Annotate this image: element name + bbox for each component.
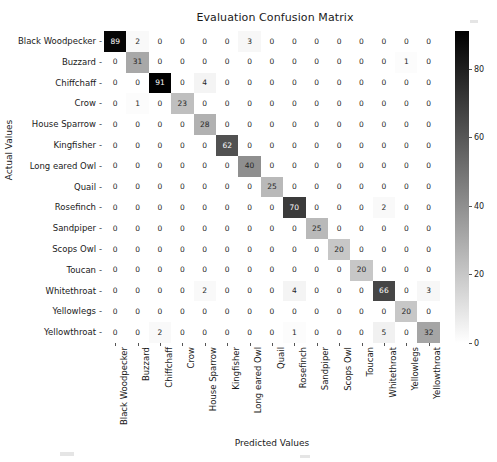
matrix-cell: 0: [216, 177, 238, 198]
matrix-cell: 0: [149, 52, 171, 73]
matrix-cell: 0: [283, 218, 305, 239]
matrix-cell: 0: [171, 73, 193, 94]
matrix-cell: 0: [238, 135, 260, 156]
matrix-cell: 0: [395, 135, 417, 156]
colorbar-tick-mark: [469, 69, 472, 70]
matrix-cell: 0: [126, 301, 148, 322]
matrix-cell: 1: [126, 93, 148, 114]
matrix-cell: 0: [328, 260, 350, 281]
colorbar-tick-label: 40: [474, 201, 484, 210]
x-axis-tick-mark: [384, 343, 385, 346]
matrix-cell: 0: [350, 156, 372, 177]
matrix-cell: 0: [216, 322, 238, 343]
matrix-cell: 40: [238, 156, 260, 177]
x-axis-tick-label: Toucan: [365, 347, 375, 377]
matrix-row: 0000000070000200: [104, 197, 440, 218]
matrix-cell: 0: [306, 73, 328, 94]
matrix-cell: 0: [306, 156, 328, 177]
matrix-cell: 0: [261, 93, 283, 114]
matrix-cell: 0: [417, 218, 440, 239]
matrix-cell: 0: [373, 73, 395, 94]
matrix-cell: 0: [149, 156, 171, 177]
matrix-cell: 25: [261, 177, 283, 198]
x-axis-tick-mark: [339, 343, 340, 346]
matrix-row: 0000200040006603: [104, 281, 440, 302]
y-axis-tick-mark: -: [99, 197, 102, 218]
matrix-cell: 0: [417, 93, 440, 114]
matrix-cell: 62: [216, 135, 238, 156]
matrix-cell: 0: [328, 73, 350, 94]
y-axis-tick-label: House Sparrow: [32, 114, 96, 135]
matrix-cell: 2: [149, 322, 171, 343]
matrix-cell: 0: [350, 52, 372, 73]
matrix-cell: 0: [261, 52, 283, 73]
matrix-cell: 0: [417, 177, 440, 198]
matrix-cell: 70: [283, 197, 305, 218]
y-axis-tick-mark: -: [99, 52, 102, 73]
colorbar-tick-label: 60: [474, 133, 484, 142]
matrix-cell: 0: [261, 73, 283, 94]
x-axis-tick-label: Sandpiper: [320, 347, 330, 390]
x-axis-tick-mark: [115, 343, 116, 346]
matrix-cell: 0: [261, 135, 283, 156]
matrix-cell: 0: [350, 197, 372, 218]
matrix-cell: 0: [328, 114, 350, 135]
confusion-matrix-grid: 8920000300000000031000000000001000910400…: [104, 31, 440, 343]
matrix-cell: 2: [194, 281, 216, 302]
matrix-cell: 0: [104, 260, 126, 281]
y-axis-tick-label: Sandpiper: [53, 218, 96, 239]
matrix-cell: 0: [149, 31, 171, 52]
matrix-cell: 0: [126, 239, 148, 260]
x-axis-tick-label: Chiffchaff: [164, 347, 174, 388]
matrix-cell: 0: [216, 114, 238, 135]
matrix-cell: 0: [306, 260, 328, 281]
matrix-cell: 0: [373, 156, 395, 177]
matrix-cell: 0: [417, 114, 440, 135]
matrix-cell: 0: [417, 73, 440, 94]
matrix-cell: 0: [104, 73, 126, 94]
matrix-cell: 0: [283, 31, 305, 52]
matrix-cell: 28: [194, 114, 216, 135]
y-axis-tick-mark: -: [99, 93, 102, 114]
matrix-cell: 0: [171, 135, 193, 156]
matrix-plot-area: 8920000300000000031000000000001000910400…: [104, 31, 440, 343]
y-axis-tick-mark: -: [99, 31, 102, 52]
x-axis-tick-mark: [362, 343, 363, 346]
matrix-cell: 89: [104, 31, 126, 52]
colorbar-tick-mark: [469, 274, 472, 275]
matrix-cell: 0: [261, 260, 283, 281]
matrix-cell: 0: [171, 322, 193, 343]
matrix-cell: 0: [216, 260, 238, 281]
matrix-cell: 0: [149, 135, 171, 156]
matrix-cell: 0: [261, 281, 283, 302]
matrix-cell: 0: [126, 177, 148, 198]
matrix-cell: 0: [261, 218, 283, 239]
y-axis-labels: Black Woodpecker-Buzzard-Chiffchaff-Crow…: [0, 31, 104, 343]
matrix-cell: 0: [373, 260, 395, 281]
matrix-cell: 0: [306, 177, 328, 198]
matrix-cell: 0: [126, 73, 148, 94]
matrix-cell: 0: [373, 114, 395, 135]
y-axis-tick-mark: -: [99, 239, 102, 260]
matrix-cell: 4: [283, 281, 305, 302]
matrix-cell: 0: [238, 281, 260, 302]
x-axis-tick-label: Long eared Owl: [253, 347, 263, 413]
y-axis-tick-label: Buzzard: [62, 52, 96, 73]
matrix-cell: 0: [238, 239, 260, 260]
confusion-matrix-figure: Evaluation Confusion Matrix Black Woodpe…: [0, 0, 497, 462]
y-axis-tick-label: Yellowlegs: [52, 301, 96, 322]
matrix-cell: 0: [417, 301, 440, 322]
matrix-cell: 32: [417, 322, 440, 343]
matrix-cell: 0: [417, 239, 440, 260]
matrix-cell: 3: [238, 31, 260, 52]
matrix-cell: 2: [373, 197, 395, 218]
matrix-cell: 0: [261, 156, 283, 177]
y-axis-tick-mark: -: [99, 218, 102, 239]
matrix-cell: 3: [417, 281, 440, 302]
matrix-cell: 0: [171, 301, 193, 322]
matrix-cell: 0: [238, 197, 260, 218]
matrix-row: 0091040000000000: [104, 73, 440, 94]
matrix-row: 0000000002500000: [104, 218, 440, 239]
scan-artifact: [60, 452, 74, 456]
matrix-cell: 0: [238, 93, 260, 114]
